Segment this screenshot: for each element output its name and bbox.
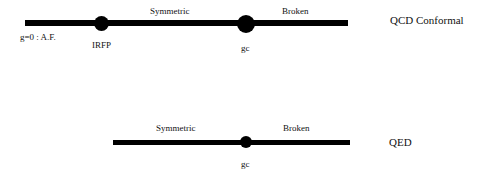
qed-symmetric-label: Symmetric [156, 124, 196, 133]
qcd-gc-label: gc [241, 44, 250, 53]
qed-coupling-axis [113, 140, 350, 145]
qcd-gc-point [237, 15, 255, 33]
qcd-coupling-axis [25, 20, 348, 26]
qcd-title: QCD Conformal [390, 15, 464, 26]
qed-gc-point [240, 136, 252, 148]
qed-title: QED [389, 137, 412, 148]
irfp-point [94, 16, 109, 31]
qcd-symmetric-label: Symmetric [150, 7, 190, 16]
qed-broken-label: Broken [283, 124, 310, 133]
irfp-label: IRFP [92, 41, 111, 50]
qed-gc-label: gc [241, 160, 250, 169]
qcd-origin-label: g=0 : A.F. [20, 33, 56, 42]
qcd-broken-label: Broken [282, 7, 309, 16]
